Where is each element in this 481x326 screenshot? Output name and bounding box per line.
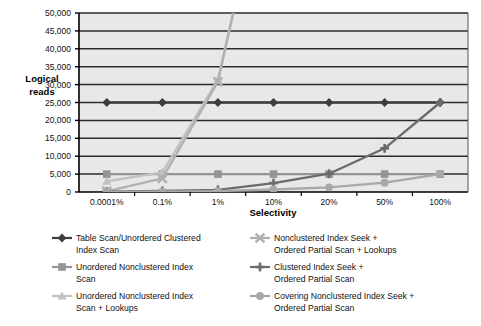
- square-marker: [58, 263, 66, 271]
- logical-reads-vs-selectivity-chart: 05,00010,00015,00020,00025,00030,00035,0…: [0, 0, 481, 326]
- legend-label-line1: Unordered Nonclustered Index: [76, 291, 194, 301]
- legend-label-line2: Scan + Lookups: [76, 303, 138, 313]
- legend-label-line2: Ordered Partial Scan + Lookups: [274, 245, 397, 255]
- circle-marker: [381, 179, 389, 187]
- y-tick-label: 0: [66, 187, 71, 197]
- data-point-marker-circle: [325, 183, 333, 191]
- data-point-marker-circle: [381, 179, 389, 187]
- y-tick-label: 15,000: [45, 133, 71, 143]
- data-point-marker-square: [381, 170, 389, 178]
- circle-marker: [436, 170, 444, 178]
- x-tick-label: 20%: [321, 197, 338, 207]
- data-point-marker-circle: [436, 170, 444, 178]
- legend-label-line1: Table Scan/Unordered Clustered: [76, 233, 201, 243]
- x-axis-title: Selectivity: [250, 207, 298, 218]
- data-point-marker-circle: [256, 292, 264, 300]
- square-marker: [214, 170, 222, 178]
- data-point-marker-square: [270, 170, 278, 178]
- circle-marker: [325, 183, 333, 191]
- square-marker: [270, 170, 278, 178]
- y-tick-label: 40,000: [45, 44, 71, 54]
- legend-label-line2: Scan: [76, 274, 96, 284]
- x-tick-label: 0.0001%: [90, 197, 124, 207]
- y-axis-title-line1: Logical: [25, 73, 58, 84]
- x-tick-label: 50%: [376, 197, 393, 207]
- data-point-marker-square: [58, 263, 66, 271]
- y-tick-label: 20,000: [45, 115, 71, 125]
- x-tick-label: 1%: [212, 197, 225, 207]
- legend-label-line2: Ordered Partial Scan: [274, 274, 354, 284]
- legend-label-line2: Index Scan: [76, 245, 119, 255]
- square-marker: [381, 170, 389, 178]
- x-tick-label: 0.1%: [153, 197, 173, 207]
- y-tick-label: 45,000: [45, 26, 71, 36]
- y-axis-title-line2: reads: [29, 86, 54, 97]
- legend-label-line1: Nonclustered Index Seek +: [274, 233, 377, 243]
- y-tick-label: 25,000: [45, 98, 71, 108]
- legend-label-line2: Ordered Partial Scan: [274, 303, 354, 313]
- legend-label-line1: Clustered Index Seek +: [274, 262, 364, 272]
- legend-label-line1: Covering Nonclustered Index Seek +: [274, 291, 414, 301]
- y-tick-label: 50,000: [45, 8, 71, 18]
- x-tick-label: 10%: [265, 197, 282, 207]
- y-tick-label: 10,000: [45, 151, 71, 161]
- x-tick-label: 100%: [429, 197, 451, 207]
- y-tick-label: 35,000: [45, 62, 71, 72]
- legend-label-line1: Unordered Nonclustered Index: [76, 262, 194, 272]
- circle-marker: [256, 292, 264, 300]
- chart-container: 05,00010,00015,00020,00025,00030,00035,0…: [0, 0, 481, 326]
- data-point-marker-square: [214, 170, 222, 178]
- y-tick-label: 5,000: [50, 169, 72, 179]
